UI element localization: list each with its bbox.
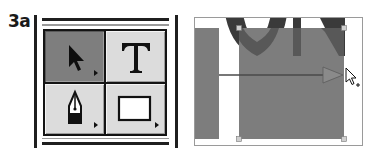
pen-tool-button[interactable] xyxy=(45,84,104,135)
step-label: 3a xyxy=(8,11,30,31)
palette-frame-bottom-inner xyxy=(42,138,169,139)
flyout-indicator-icon xyxy=(94,122,98,128)
flyout-indicator-icon xyxy=(155,122,159,128)
type-tool-button[interactable] xyxy=(106,31,165,82)
palette-frame-top-inner xyxy=(42,24,169,26)
flyout-indicator-icon xyxy=(94,70,98,76)
left-rectangle[interactable] xyxy=(195,28,219,139)
palette-frame-left xyxy=(34,15,37,148)
palette-frame-top xyxy=(42,18,169,21)
selection-tool-button[interactable] xyxy=(45,31,104,82)
palette-frame-bottom xyxy=(42,142,169,145)
rectangle-tool-button[interactable] xyxy=(106,84,165,135)
document-canvas[interactable] xyxy=(194,17,363,146)
palette-frame-right xyxy=(175,15,178,148)
selection-cursor-icon xyxy=(346,68,360,87)
tool-palette xyxy=(43,29,167,136)
